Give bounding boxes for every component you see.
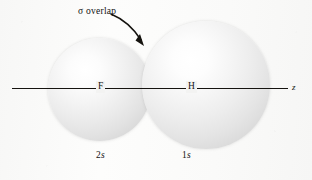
orbital-sphere-hydrogen-1s — [142, 21, 270, 149]
caption-1s-letter: s — [187, 150, 191, 160]
orbital-caption-1s: 1s — [182, 150, 191, 160]
caption-2s-letter: s — [101, 150, 105, 160]
internuclear-axis-line — [12, 88, 288, 89]
sigma-overlap-arrow-icon — [110, 12, 154, 54]
atom-label-fluorine: F — [96, 81, 105, 93]
orbital-overlap-diagram: F H z σ overlap 2s 1s — [0, 0, 312, 180]
atom-label-hydrogen: H — [186, 81, 197, 93]
orbital-caption-2s: 2s — [96, 150, 105, 160]
axis-label-z: z — [292, 82, 296, 92]
